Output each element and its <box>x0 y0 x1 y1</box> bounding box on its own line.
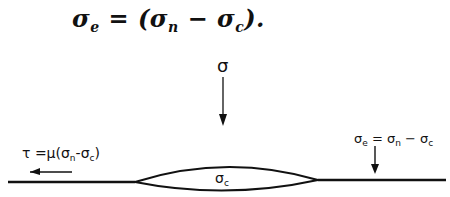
effective-stress-label: σe = σn − σc <box>354 131 433 148</box>
contact-stress-label: σc <box>215 170 229 188</box>
effective-stress-arrow-icon <box>371 146 379 174</box>
shear-arrow-icon <box>30 168 72 175</box>
applied-stress-arrow-icon <box>219 77 227 126</box>
applied-stress-label: σ <box>217 55 228 76</box>
shear-stress-label: τ =μ(σn-σc) <box>22 145 100 163</box>
fault-contact-diagram <box>0 0 450 197</box>
